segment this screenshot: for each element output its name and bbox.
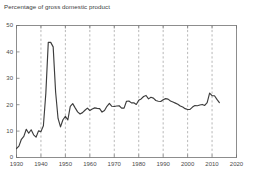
plot-area bbox=[16, 25, 237, 158]
y-axis-tick-label: 10 bbox=[1, 128, 13, 134]
x-axis-tick-label: 1980 bbox=[127, 161, 151, 167]
x-axis-tick-label: 1940 bbox=[29, 161, 53, 167]
x-axis-tick-label: 1960 bbox=[78, 161, 102, 167]
y-axis-tick-label: 30 bbox=[1, 75, 13, 81]
x-axis-tick-label: 1930 bbox=[5, 161, 29, 167]
x-axis-tick-label: 1990 bbox=[151, 161, 175, 167]
y-axis-tick-label: 20 bbox=[1, 102, 13, 108]
chart-container: Percentage of gross domestic product 010… bbox=[0, 0, 256, 174]
chart-title: Percentage of gross domestic product bbox=[4, 3, 110, 10]
y-axis-tick-label: 50 bbox=[1, 22, 13, 28]
y-axis-tick-label: 40 bbox=[1, 49, 13, 55]
x-axis-tick-label: 2000 bbox=[176, 161, 200, 167]
x-axis-tick-label: 1970 bbox=[102, 161, 126, 167]
y-axis-tick-label: 0 bbox=[1, 154, 13, 160]
x-axis-tick-label: 2010 bbox=[200, 161, 224, 167]
x-axis-tick-label: 1950 bbox=[53, 161, 77, 167]
x-axis-tick-label: 2020 bbox=[225, 161, 249, 167]
